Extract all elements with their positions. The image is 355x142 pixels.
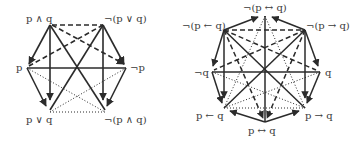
hexagon-label-bottom-left: p ∨ q — [26, 114, 52, 125]
hexagon-label-right: ¬p — [130, 62, 145, 73]
octagon-label-bottom-left: p ← q — [196, 110, 224, 121]
subcontrary-edges — [27, 68, 126, 112]
logical-hexagon — [27, 25, 126, 112]
hexagon-label-top-left: p ∧ q — [26, 13, 52, 24]
octagon-label-left: ¬q — [194, 67, 209, 78]
octagon-label-right: q — [325, 67, 331, 78]
hexagon-label-top-right: ¬(p ∨ q) — [104, 13, 147, 24]
octagon-label-top: ¬(p ↔ q) — [243, 2, 287, 13]
logic-diagrams-canvas — [0, 0, 355, 142]
logical-octagon — [212, 16, 320, 122]
octagon-label-bottom-right: p → q — [305, 110, 333, 121]
octagon-label-top-right: ¬(p → q) — [306, 20, 350, 31]
hexagon-label-left: p — [16, 62, 22, 73]
hexagon-label-bottom-right: ¬(p ∧ q) — [104, 114, 147, 125]
octagon-label-bottom: p ↔ q — [248, 125, 276, 136]
contrary-edges — [29, 25, 124, 66]
octagon-label-top-left: ¬(p ← q) — [182, 20, 226, 31]
